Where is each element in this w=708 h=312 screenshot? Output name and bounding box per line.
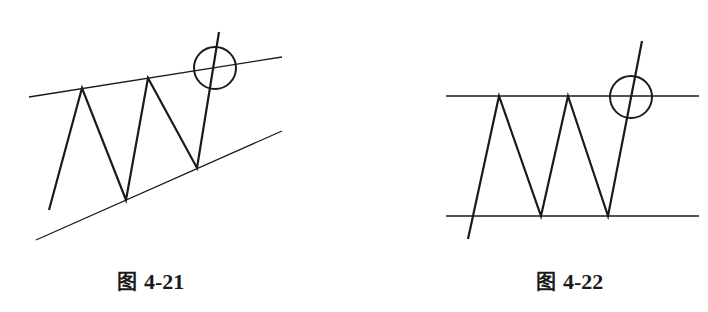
figure-4-21 — [29, 32, 282, 240]
lower-trendline — [36, 131, 282, 240]
price-zigzag — [468, 41, 642, 239]
caption-figure-4-22: 图 4-22 — [536, 266, 603, 295]
caption-prefix: 图 — [117, 270, 137, 294]
figure-4-22 — [446, 41, 699, 239]
caption-figure-4-21: 图 4-21 — [117, 266, 184, 295]
price-zigzag — [49, 32, 219, 210]
caption-prefix: 图 — [536, 270, 556, 294]
caption-number: 4-21 — [144, 269, 184, 294]
caption-number: 4-22 — [563, 269, 603, 294]
